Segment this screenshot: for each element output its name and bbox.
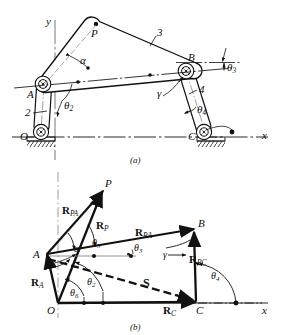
angle-label-theta3-b: θ3 xyxy=(134,243,142,254)
R-PA-glyph: R xyxy=(62,204,70,216)
point-label-c-b: C xyxy=(196,305,203,316)
theta4-sub-b: 4 xyxy=(216,275,219,282)
R-C-glyph: R xyxy=(163,304,171,316)
axis-label-x-a: x xyxy=(262,130,267,141)
subfigure-a xyxy=(12,17,268,160)
angle-label-theta6-b: θ6 xyxy=(70,288,78,299)
vector-label-R-PA: RPA xyxy=(62,205,78,217)
theta2-sub-b: 2 xyxy=(92,281,95,288)
axis-label-y-a: y xyxy=(46,16,51,27)
point-label-o-a: O xyxy=(20,131,28,142)
vector-label-R-BC: RBC xyxy=(189,254,207,266)
reference-horizontal-a-b xyxy=(50,253,136,258)
point-label-c-a: C xyxy=(188,131,195,142)
point-label-b-b: B xyxy=(198,218,205,229)
theta3-sub-b: 3 xyxy=(139,247,142,254)
point-label-a-b: A xyxy=(33,249,40,260)
link-3-body xyxy=(37,17,202,93)
vector-label-R-P: RP xyxy=(96,220,109,232)
vector-R-C xyxy=(58,302,196,303)
angle-label-alpha-a: α xyxy=(80,55,86,66)
theta3-arrow-a xyxy=(223,48,227,71)
vector-label-S: S xyxy=(143,277,150,289)
vector-label-R-A: RA xyxy=(31,277,44,289)
theta6-sub-b: 6 xyxy=(75,292,78,299)
R-BC-sub: BC xyxy=(197,258,207,267)
R-BA-glyph: R xyxy=(135,226,143,238)
R-P-glyph: R xyxy=(96,219,104,231)
vector-label-R-C: RC xyxy=(163,305,176,317)
pivot-c xyxy=(196,124,211,139)
R-A-sub: A xyxy=(39,281,44,290)
R-BC-glyph: R xyxy=(189,253,197,265)
theta4-arc-b xyxy=(195,262,238,305)
vector-label-R-BA: RBA xyxy=(135,227,152,239)
theta2-sub-a: 2 xyxy=(69,104,73,113)
subfigure-b xyxy=(47,172,268,318)
theta3-sub-a: 3 xyxy=(232,66,236,75)
R-P-sub: P xyxy=(104,224,109,233)
vector-R-BC xyxy=(194,232,196,301)
theta5-sub-b: 5 xyxy=(97,242,100,249)
angle-label-theta4-a: θ4 xyxy=(197,104,206,116)
point-label-a-a: A xyxy=(27,89,34,100)
theta3-arc-b xyxy=(132,250,133,255)
caption-b: (b) xyxy=(130,322,141,332)
angle-label-gamma-b: γ xyxy=(163,250,167,260)
angle-label-theta3-a: θ3 xyxy=(227,62,236,74)
vector-R-BA xyxy=(47,229,194,254)
angle-label-alpha-b: α xyxy=(74,244,79,254)
gamma-arc-b xyxy=(166,240,190,255)
link-label-4-a: 4 xyxy=(199,84,205,95)
R-PA-sub: PA xyxy=(70,209,78,218)
pivot-a xyxy=(35,76,51,92)
angle-label-theta4-b: θ4 xyxy=(211,271,219,282)
point-label-p-a: P xyxy=(91,28,98,39)
point-label-b-a: B xyxy=(188,52,195,63)
angle-label-theta2-b: θ2 xyxy=(87,277,95,288)
point-label-o-b: O xyxy=(47,305,55,316)
R-A-glyph: R xyxy=(31,276,39,288)
R-BA-sub: BA xyxy=(143,231,152,240)
link-label-3-a: 3 xyxy=(157,27,163,38)
axis-label-x-b: x xyxy=(262,305,267,316)
S-glyph: S xyxy=(143,276,150,290)
angle-label-theta2-a: θ2 xyxy=(64,100,73,112)
pivot-o xyxy=(33,124,48,139)
caption-a: (a) xyxy=(130,155,141,165)
angle-label-gamma-a: γ xyxy=(157,88,161,99)
link-label-2-a: 2 xyxy=(25,107,31,118)
theta4-sub-a: 4 xyxy=(202,108,206,117)
pivot-b xyxy=(178,63,194,79)
point-label-p-b: P xyxy=(105,178,112,189)
R-C-sub: C xyxy=(171,309,176,318)
angle-label-theta5-b: θ5 xyxy=(92,238,100,249)
